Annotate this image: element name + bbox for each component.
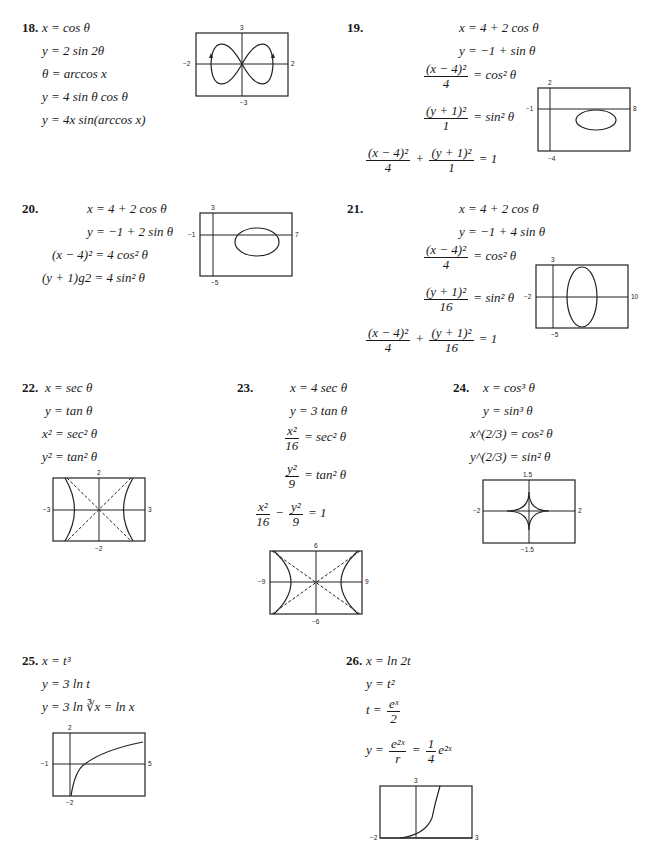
svg-text:−2: −2 — [370, 834, 378, 841]
svg-text:−2: −2 — [524, 293, 532, 300]
problem-number: 26. — [346, 653, 362, 669]
equation-line: x^(2/3) = cos² θ — [470, 426, 553, 442]
equation-line: (y + 1)g2 = 4 sin² θ — [42, 270, 145, 286]
graph-ellipse: 2 −4 −1 8 — [538, 85, 648, 165]
svg-text:−5: −5 — [551, 331, 559, 338]
problem-number: 19. — [347, 20, 363, 36]
svg-text:7: 7 — [295, 231, 299, 238]
svg-text:3: 3 — [148, 506, 152, 513]
svg-text:2: 2 — [97, 469, 101, 476]
svg-text:5: 5 — [148, 760, 152, 767]
svg-text:−5: −5 — [211, 279, 219, 286]
graph-figure-eight: 3 −3 −2 2 — [186, 25, 296, 105]
graph-log: 2 −2 −1 5 — [53, 730, 163, 810]
svg-text:−3: −3 — [43, 506, 51, 513]
graph-circle: 3 −5 −1 7 — [200, 210, 310, 290]
fraction-line: t = eˣ2 — [366, 697, 402, 726]
svg-text:−1: −1 — [526, 105, 534, 112]
problem-number: 18. — [22, 20, 38, 36]
equation-line: y = −1 + sin θ — [459, 43, 535, 59]
equation-line: y = 2 sin 2θ — [42, 43, 104, 59]
problem-number: 23. — [237, 380, 253, 396]
svg-text:−9: −9 — [258, 578, 266, 585]
svg-text:−2: −2 — [95, 545, 103, 552]
graph-astroid: 1.5 −1.5 −2 2 — [483, 477, 593, 557]
svg-text:−4: −4 — [548, 155, 556, 162]
svg-text:3: 3 — [414, 777, 418, 784]
problem-number: 22. — [22, 380, 38, 396]
equation-line: x = t³ — [42, 653, 71, 669]
svg-text:−2: −2 — [66, 799, 74, 806]
svg-text:−1.5: −1.5 — [521, 546, 534, 553]
svg-text:3: 3 — [551, 256, 555, 263]
equation-line: y = 4x sin(arccos x) — [42, 112, 146, 128]
equation-line: y = 3 ln t — [42, 676, 90, 692]
y-min-label: −3 — [240, 99, 248, 106]
graph-vertical-ellipse: 3 −5 −2 10 — [536, 262, 646, 342]
equation-line: y = t² — [366, 676, 395, 692]
fraction-line: (y + 1)²16 = sin² θ — [422, 285, 514, 314]
svg-text:−2: −2 — [473, 507, 481, 514]
equation-line: (x − 4)² = 4 cos² θ — [52, 247, 148, 263]
graph-hyperbola: 2 −2 −3 3 — [53, 475, 163, 555]
equation-line: x² = sec² θ — [42, 426, 97, 442]
equation-line: θ = arccos x — [42, 66, 107, 82]
svg-text:3: 3 — [211, 204, 215, 211]
fraction-line: (x − 4)²4 = cos² θ — [422, 243, 516, 272]
problem-number: 20. — [22, 201, 38, 217]
svg-text:1.5: 1.5 — [523, 471, 532, 478]
svg-text:−1: −1 — [41, 760, 49, 767]
x-min-label: −2 — [183, 60, 191, 67]
fraction-line: (x − 4)²4 = cos² θ — [422, 62, 516, 91]
svg-text:6: 6 — [314, 542, 318, 549]
final-equation: x²16 − y²9 = 1 — [254, 500, 326, 529]
fraction-line: (y + 1)²1 = sin² θ — [422, 104, 514, 133]
equation-line: y = −1 + 4 sin θ — [459, 224, 545, 240]
equation-line: y = sin³ θ — [483, 403, 533, 419]
problem-number: 24. — [453, 380, 469, 396]
equation-line: y = −1 + 2 sin θ — [87, 224, 173, 240]
equation-line: x = 4 + 2 cos θ — [459, 201, 539, 217]
svg-text:2: 2 — [548, 79, 552, 86]
fraction-line: y = e²ˣr = 14e²ˣ — [366, 737, 452, 766]
equation-line: y² = tan² θ — [42, 449, 97, 465]
svg-text:2: 2 — [68, 724, 72, 731]
svg-text:9: 9 — [365, 578, 369, 585]
svg-text:−1: −1 — [188, 231, 196, 238]
equation-line: y = 4 sin θ cos θ — [42, 89, 128, 105]
equation-line: y = 3 ln ∛x = ln x — [42, 699, 135, 715]
equation-line: x = cos θ — [42, 20, 90, 36]
svg-text:3: 3 — [475, 834, 479, 841]
graph-exponential: 3 −2 3 — [380, 783, 490, 843]
equation-line: x = sec θ — [45, 380, 92, 396]
equation-line: x = ln 2t — [366, 653, 411, 669]
equation-line: x = cos³ θ — [483, 380, 535, 396]
svg-text:−6: −6 — [312, 618, 320, 625]
equation-line: y^(2/3) = sin² θ — [470, 449, 551, 465]
problem-number: 21. — [347, 201, 363, 217]
graph-hyperbola-2: 6 −6 −9 9 — [270, 548, 380, 628]
equation-line: y = 3 tan θ — [290, 403, 347, 419]
equation-line: x = 4 sec θ — [290, 380, 347, 396]
final-equation: (x − 4)²4 + (y + 1)²16 = 1 — [364, 326, 497, 355]
problem-number: 25. — [22, 653, 38, 669]
x-max-label: 2 — [291, 60, 295, 67]
svg-text:2: 2 — [578, 507, 582, 514]
fraction-line: y²9 = tan² θ — [283, 462, 346, 491]
equation-line: y = tan θ — [45, 403, 92, 419]
svg-text:8: 8 — [633, 105, 637, 112]
equation-line: x = 4 + 2 cos θ — [459, 20, 539, 36]
fraction-line: x²16 = sec² θ — [283, 424, 346, 453]
final-equation: (x − 4)²4 + (y + 1)²1 = 1 — [364, 146, 497, 175]
svg-text:10: 10 — [631, 293, 639, 300]
y-max-label: 3 — [240, 24, 244, 31]
equation-line: x = 4 + 2 cos θ — [87, 201, 167, 217]
